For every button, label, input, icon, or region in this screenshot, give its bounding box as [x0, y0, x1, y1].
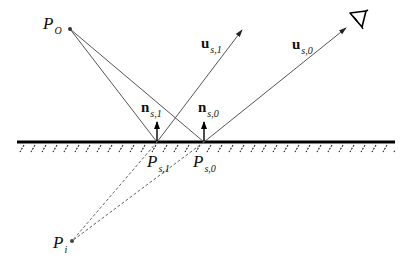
incident-ray-0 — [70, 29, 204, 142]
virtual-ray-0 — [72, 142, 204, 241]
reflected-ray-u-s1 — [157, 30, 242, 142]
label-p-s1: Ps,1 — [147, 153, 170, 170]
label-p-i: Pi — [53, 234, 67, 251]
label-p-s0: Ps,0 — [193, 153, 216, 170]
incident-ray-1 — [70, 29, 157, 142]
label-n-s1: ns,1 — [141, 100, 162, 115]
reflection-diagram: PO Pi Ps,1 Ps,0 ns,1 ns,0 us,1 us,0 — [0, 0, 405, 278]
point-p-i — [70, 239, 74, 243]
label-n-s0: ns,0 — [198, 100, 219, 115]
eye-icon — [350, 10, 368, 29]
virtual-ray-1 — [72, 142, 157, 241]
label-u-s1: us,1 — [201, 36, 222, 51]
label-u-s0: us,0 — [292, 37, 313, 52]
label-p-o: PO — [43, 15, 62, 32]
point-p-o — [68, 27, 72, 31]
reflected-ray-u-s0 — [204, 28, 346, 142]
